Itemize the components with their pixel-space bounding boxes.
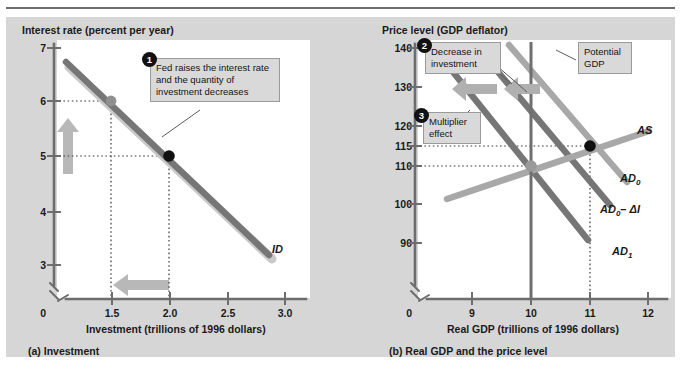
panel-b-potential-gdp-label: Potential GDP: [578, 42, 632, 74]
ad1-label-base: AD: [612, 245, 628, 257]
ad-delta-label-rest: – ΔI: [620, 203, 640, 215]
ad0-label-base: AD: [620, 172, 636, 184]
panel-b-guide-lines: [416, 146, 590, 299]
potential-gdp-label-text: Potential GDP: [584, 46, 621, 69]
ad0-label-sub: 0: [636, 178, 640, 187]
panel-b-callout-3-badge: 3: [414, 108, 429, 123]
panel-b-initial-point: [584, 140, 596, 152]
panel-b-callout-2-text: Decrease in investment: [431, 46, 482, 69]
ad1-label-sub: 1: [628, 251, 632, 260]
panel-b-curve-label-ad0: AD0: [620, 172, 640, 187]
panel-b-curve-label-as: AS: [637, 124, 652, 136]
panel-b-callout-2-badge: 2: [417, 38, 432, 53]
economics-figure: Interest rate (percent per year) 7 6 5 4…: [0, 0, 681, 375]
panel-b-callout-3-text: Multiplier effect: [429, 116, 467, 139]
panel-b-callout-3: Multiplier effect: [423, 112, 481, 144]
panel-b-curve-label-ad0-delta-i: AD0– ΔI: [600, 203, 640, 218]
ad-delta-label-base: AD: [600, 203, 616, 215]
panel-b-callout-2: Decrease in investment: [425, 42, 501, 74]
panel-b-new-point: [525, 160, 537, 172]
panel-b-curve-label-ad1: AD1: [612, 245, 632, 260]
